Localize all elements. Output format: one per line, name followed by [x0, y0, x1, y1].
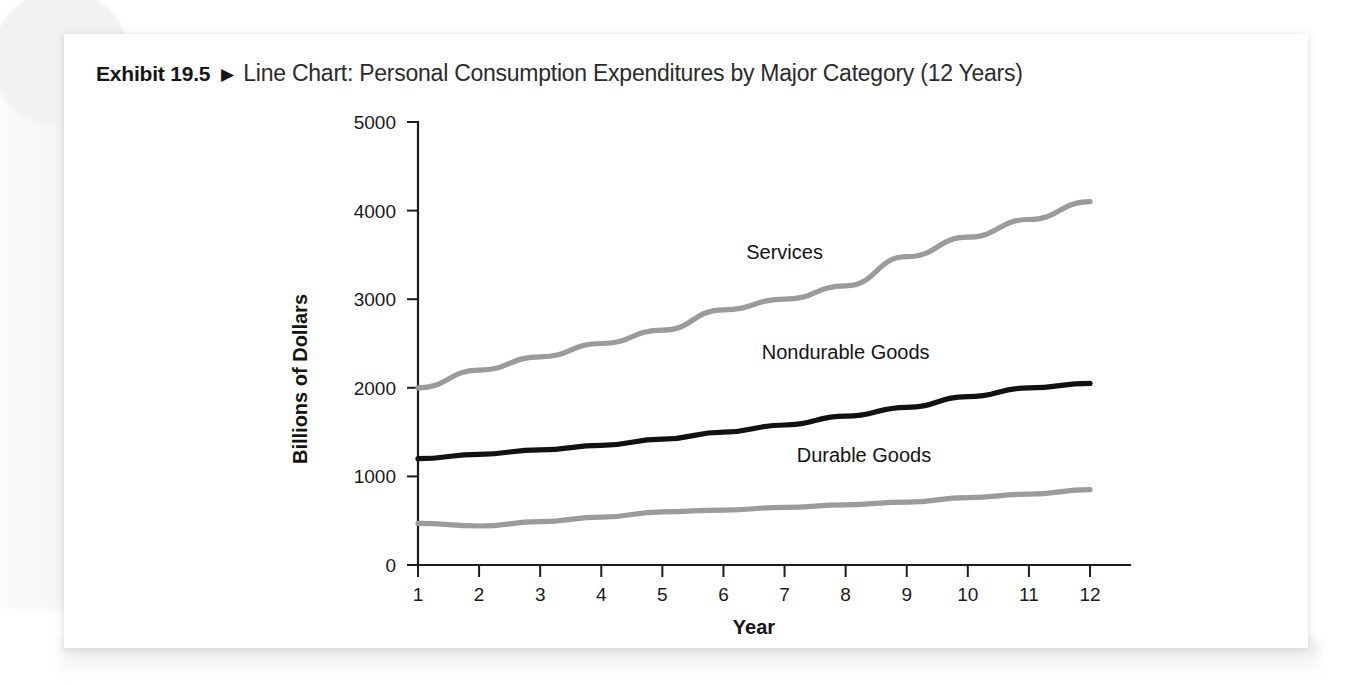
series-line-durable-goods [418, 490, 1090, 526]
chart-container: 010002000300040005000 123456789101112 Se… [64, 34, 1308, 648]
series-label-nondurable-goods: Nondurable Goods [762, 341, 930, 363]
series-label-durable-goods: Durable Goods [797, 444, 932, 466]
line-chart: 010002000300040005000 123456789101112 Se… [64, 34, 1308, 648]
x-tick-label: 12 [1079, 584, 1100, 605]
x-tick-label: 1 [413, 584, 424, 605]
y-tick-label: 2000 [354, 378, 396, 399]
x-tick-label: 5 [657, 584, 668, 605]
x-tick-label: 6 [718, 584, 729, 605]
y-tick-label: 3000 [354, 289, 396, 310]
x-tick-label: 3 [535, 584, 546, 605]
x-tick-label: 4 [596, 584, 607, 605]
x-axis: 123456789101112 [413, 565, 1130, 605]
exhibit-card: Exhibit 19.5 ▶ Line Chart: Personal Cons… [64, 34, 1308, 648]
y-tick-label: 1000 [354, 466, 396, 487]
series-line-services [418, 202, 1090, 388]
x-tick-label: 10 [957, 584, 978, 605]
x-tick-label: 9 [901, 584, 912, 605]
series-line-nondurable-goods [418, 383, 1090, 458]
x-axis-title: Year [733, 616, 775, 638]
series-label-services: Services [746, 241, 823, 263]
x-tick-label: 2 [474, 584, 485, 605]
y-tick-label: 5000 [354, 112, 396, 133]
x-tick-label: 8 [840, 584, 851, 605]
y-tick-label: 0 [385, 555, 396, 576]
y-axis: 010002000300040005000 [354, 112, 418, 576]
page-root: Exhibit 19.5 ▶ Line Chart: Personal Cons… [0, 0, 1370, 684]
x-tick-label: 7 [779, 584, 790, 605]
series-annotations: ServicesNondurable GoodsDurable Goods [746, 241, 931, 466]
y-tick-label: 4000 [354, 201, 396, 222]
x-tick-label: 11 [1019, 584, 1039, 605]
y-axis-title: Billions of Dollars [289, 294, 311, 464]
